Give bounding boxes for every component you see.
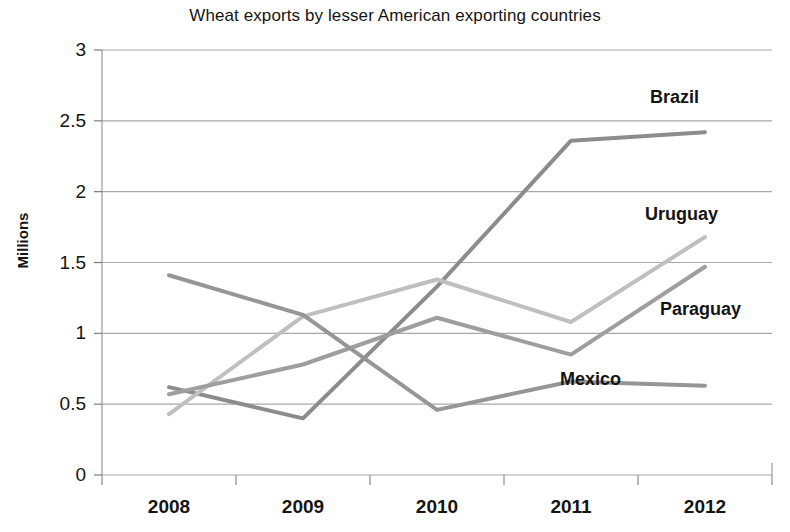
y-axis-ticks [94,50,102,475]
series-lines [169,132,705,418]
series-label-brazil: Brazil [650,88,699,106]
series-label-uruguay: Uruguay [645,205,718,223]
y-axis-tick-label: 1 [42,323,86,342]
x-axis-ticks [102,475,772,485]
x-axis-tick-label: 2010 [392,497,482,516]
y-axis-tick-label: 3 [42,40,86,59]
y-axis-tick-label: 0.5 [42,394,86,413]
x-axis-tick-label: 2012 [660,497,750,516]
x-axis-tick-label: 2008 [124,497,214,516]
y-axis-tick-label: 2.5 [42,111,86,130]
y-axis-tick-label: 0 [42,465,86,484]
y-axis-tick-label: 2 [42,182,86,201]
line-chart: Wheat exports by lesser American exporti… [0,0,790,532]
y-axis-tick-label: 1.5 [42,253,86,272]
series-label-paraguay: Paraguay [660,300,741,318]
plot-area [0,0,790,532]
series-label-mexico: Mexico [560,370,621,388]
x-axis-tick-label: 2009 [258,497,348,516]
x-axis-tick-label: 2011 [526,497,616,516]
